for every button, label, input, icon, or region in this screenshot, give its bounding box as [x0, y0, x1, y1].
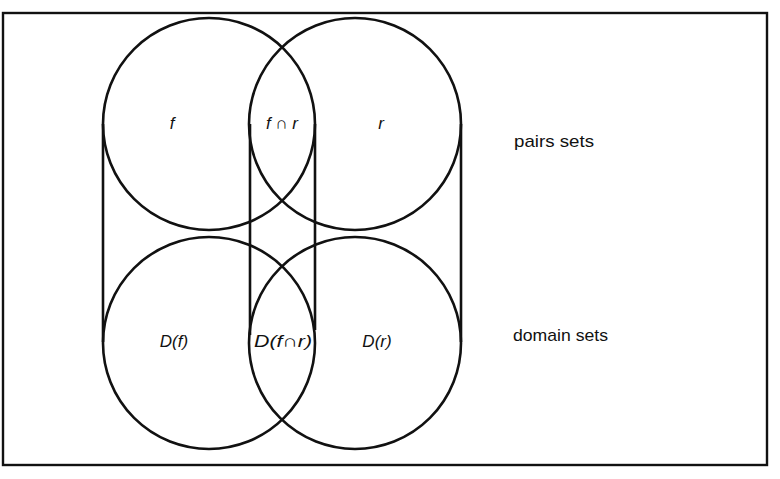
label-domain-r: D(r) [362, 332, 391, 351]
label-r: r [378, 114, 385, 133]
row-label-pairs-sets: pairs sets [514, 132, 594, 151]
row-label-domain-sets: domain sets [513, 326, 608, 345]
diagram-canvas: f f ∩ r r D(f) D(f∩r) D(r) pairs sets do… [0, 0, 780, 479]
label-domain-f: D(f) [160, 332, 188, 351]
label-f-intersect-r: f ∩ r [266, 114, 299, 133]
label-f: f [170, 114, 177, 133]
label-domain-f-intersect-r: D(f∩r) [254, 332, 312, 351]
